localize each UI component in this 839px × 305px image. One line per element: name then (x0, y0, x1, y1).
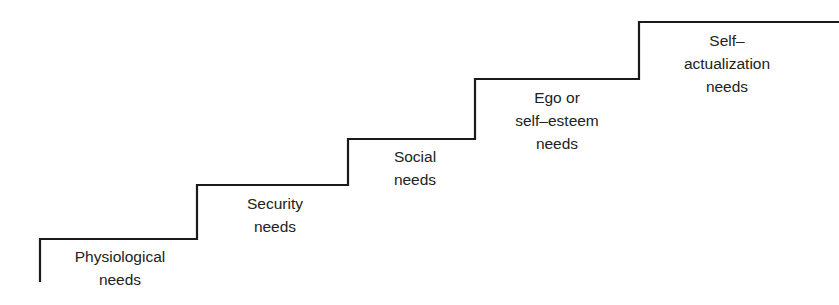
step-label-line: Social (394, 145, 436, 168)
step-label-line: Self– (684, 29, 770, 52)
step-label-line: actualization (684, 52, 770, 75)
step-label-self-actualization: Self– actualization needs (684, 29, 770, 98)
step-label-line: needs (247, 215, 303, 238)
step-label-line: Ego or (515, 86, 599, 109)
step-label-line: Security (247, 192, 303, 215)
step-label-physiological: Physiological needs (75, 245, 165, 291)
step-label-ego: Ego or self–esteem needs (515, 86, 599, 155)
step-label-social: Social needs (394, 145, 436, 191)
step-label-line: needs (515, 132, 599, 155)
step-label-security: Security needs (247, 192, 303, 238)
step-label-line: needs (684, 75, 770, 98)
step-label-line: needs (75, 268, 165, 291)
step-label-line: self–esteem (515, 109, 599, 132)
step-label-line: Physiological (75, 245, 165, 268)
step-label-line: needs (394, 168, 436, 191)
